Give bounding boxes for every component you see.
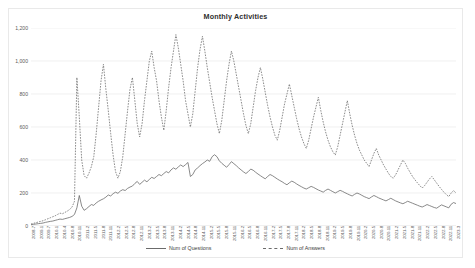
x-axis-tick-label: 2013-5	[155, 226, 160, 239]
x-axis-tick-label: 2022-5	[433, 226, 438, 239]
chart-title: Monthly Activities	[9, 12, 462, 21]
x-axis-tick-label: 2017-5	[278, 226, 283, 239]
legend-item-questions[interactable]: Num of Questions	[146, 245, 211, 251]
x-axis-tick-label: 2019-2	[332, 226, 337, 239]
x-axis-tick-label: 2013-8	[162, 226, 167, 239]
x-axis-tick-label: 2017-11	[294, 226, 299, 241]
x-axis-tick-label: 2018-8	[317, 226, 322, 239]
y-axis-tick-label: 400	[20, 157, 29, 163]
y-axis-tick-label: 200	[20, 190, 29, 196]
x-axis-tick-label: 2018-11	[325, 226, 330, 241]
x-axis-tick-label: 2022-11	[448, 226, 453, 241]
x-axis-tick-label: 2020-5	[371, 226, 376, 239]
chart-frame: Monthly Activities 02004006008001,0001,2…	[8, 8, 463, 258]
x-axis-tick-label: 2014-2	[178, 226, 183, 239]
x-axis-tick-label: 2010-4	[62, 226, 67, 239]
x-axis-tick-label: 2022-2	[425, 226, 430, 239]
x-axis-tick-label: 2013-2	[147, 226, 152, 239]
legend-swatch-solid-icon	[146, 248, 166, 249]
x-axis-tick-label: 2012-5	[124, 226, 129, 239]
y-axis-tick-label: 1,000	[15, 58, 28, 64]
x-axis-tick-label: 2010-1	[54, 226, 59, 239]
x-axis-tick-label: 2016-8	[255, 226, 260, 239]
x-axis-tick-label: 2014-8	[193, 226, 198, 239]
x-axis-tick-label: 2015-5	[216, 226, 221, 239]
legend-swatch-dashed-icon	[263, 248, 283, 249]
x-axis-tick-label: 2012-2	[116, 226, 121, 239]
x-axis-tick-label: 2017-8	[286, 226, 291, 239]
x-axis-tick-label: 2018-5	[309, 226, 314, 239]
x-axis-tick-label: 2010-8	[70, 226, 75, 239]
x-axis-tick-label: 2015-8	[224, 226, 229, 239]
x-axis-tick-label: 2009-1	[39, 226, 44, 239]
x-axis-tick-label: 2016-11	[263, 226, 268, 241]
y-axis-tick-label: 800	[20, 91, 29, 97]
x-axis-tick-label: 2016-5	[247, 226, 252, 239]
x-axis-tick-label: 2023-3	[456, 226, 461, 239]
x-axis-tick-label: 2021-5	[402, 226, 407, 239]
x-axis-tick-label: 2014-5	[186, 226, 191, 239]
x-axis-tick-label: 2021-11	[417, 226, 422, 241]
legend-item-answers[interactable]: Num of Answers	[263, 245, 325, 251]
x-axis-tick-label: 2019-8	[348, 226, 353, 239]
legend-label-answers: Num of Answers	[286, 245, 325, 251]
x-axis-tick-label: 2022-8	[441, 226, 446, 239]
x-axis-tick-label: 2015-2	[209, 226, 214, 239]
x-axis-tick-label: 2009-7	[46, 226, 51, 239]
x-axis-tick-label: 2012-8	[131, 226, 136, 239]
x-axis-tick-label: 2018-2	[301, 226, 306, 239]
series-line-num-of-questions	[31, 155, 456, 225]
x-axis-tick-label: 2012-11	[139, 226, 144, 241]
x-axis-tick-label: 2011-2	[85, 226, 90, 239]
x-axis-tick-label: 2019-11	[356, 226, 361, 241]
x-axis-tick-label: 2010-11	[77, 226, 82, 241]
x-axis-tick-label: 2016-2	[240, 226, 245, 239]
x-axis-tick-label: 2021-2	[394, 226, 399, 239]
x-axis-tick-label: 2013-11	[170, 226, 175, 241]
x-axis-tick-label: 2019-5	[340, 226, 345, 239]
x-axis-tick-label: 2011-8	[101, 226, 106, 239]
y-axis-tick-label: 600	[20, 124, 29, 130]
x-axis-tick-label: 2020-2	[363, 226, 368, 239]
series-line-num-of-answers	[31, 35, 456, 224]
x-axis-tick-label: 2015-11	[232, 226, 237, 241]
plot-area: 02004006008001,0001,200	[31, 28, 456, 226]
chart-svg	[31, 28, 456, 226]
legend-label-questions: Num of Questions	[169, 245, 211, 251]
gridlines	[31, 28, 456, 226]
x-axis-tick-label: 2017-2	[271, 226, 276, 239]
y-axis-tick-label: 1,200	[15, 25, 28, 31]
x-axis-tick-label: 2020-8	[379, 226, 384, 239]
chart-legend: Num of Questions Num of Answers	[9, 241, 462, 255]
x-axis-tick-label: 2020-11	[386, 226, 391, 241]
x-axis-tick-label: 2011-5	[93, 226, 98, 239]
x-axis-tick-label: 2014-11	[201, 226, 206, 241]
x-axis-tick-label: 2008-7	[31, 226, 36, 239]
x-axis-tick-label: 2011-11	[108, 226, 113, 241]
x-axis-tick-label: 2021-8	[410, 226, 415, 239]
